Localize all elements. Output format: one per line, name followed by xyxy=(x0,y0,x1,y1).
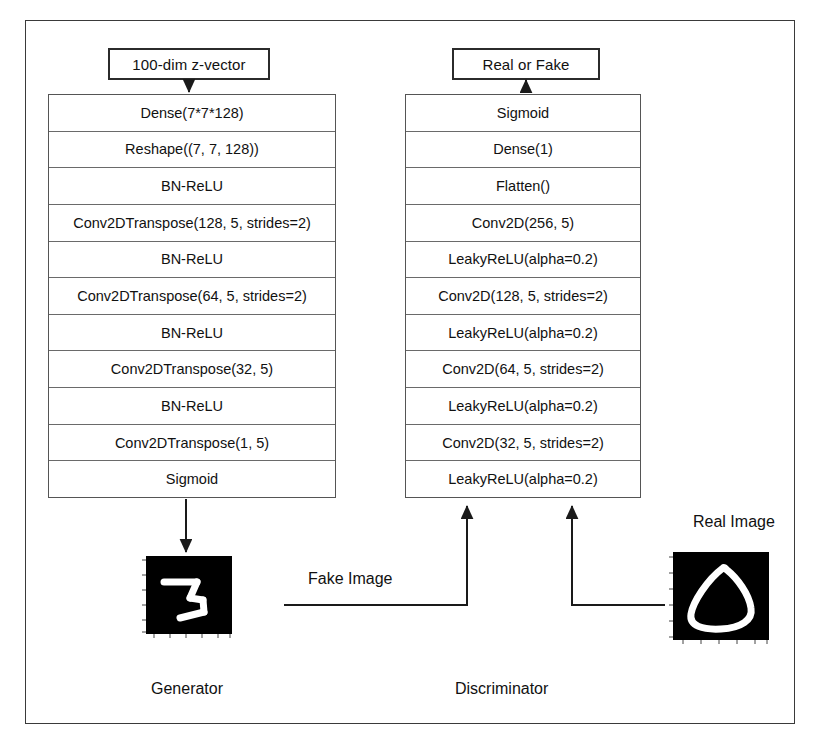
layer-label: Conv2DTranspose(64, 5, strides=2) xyxy=(77,288,307,304)
discriminator-layer-row: LeakyReLU(alpha=0.2) xyxy=(406,242,640,279)
layer-label: Dense(7*7*128) xyxy=(140,105,243,121)
discriminator-layer-row: LeakyReLU(alpha=0.2) xyxy=(406,388,640,425)
discriminator-layer-row: Conv2D(128, 5, strides=2) xyxy=(406,278,640,315)
layer-label: LeakyReLU(alpha=0.2) xyxy=(448,398,598,414)
generator-layer-row: Conv2DTranspose(64, 5, strides=2) xyxy=(49,278,335,315)
generator-layer-stack: Dense(7*7*128) Reshape((7, 7, 128)) BN-R… xyxy=(48,94,336,498)
diagram-canvas: 100-dim z-vector Real or Fake Dense(7*7*… xyxy=(0,0,813,747)
generator-layer-row: Conv2DTranspose(128, 5, strides=2) xyxy=(49,205,335,242)
layer-label: Flatten() xyxy=(496,178,550,194)
discriminator-layer-stack: Sigmoid Dense(1) Flatten() Conv2D(256, 5… xyxy=(405,94,641,498)
layer-label: LeakyReLU(alpha=0.2) xyxy=(448,325,598,341)
layer-label: Sigmoid xyxy=(166,471,218,487)
discriminator-output-label: Real or Fake xyxy=(482,56,569,73)
generator-layer-row: BN-ReLU xyxy=(49,168,335,205)
layer-label: Reshape((7, 7, 128)) xyxy=(125,141,259,157)
layer-label: BN-ReLU xyxy=(161,251,223,267)
layer-label: Conv2D(256, 5) xyxy=(472,215,574,231)
generator-layer-row: Reshape((7, 7, 128)) xyxy=(49,132,335,169)
layer-label: Conv2DTranspose(32, 5) xyxy=(111,361,273,377)
layer-label: LeakyReLU(alpha=0.2) xyxy=(448,471,598,487)
layer-label: Conv2DTranspose(128, 5, strides=2) xyxy=(73,215,311,231)
discriminator-layer-row: Conv2D(64, 5, strides=2) xyxy=(406,351,640,388)
layer-label: Sigmoid xyxy=(497,105,549,121)
generator-layer-row: BN-ReLU xyxy=(49,242,335,279)
generator-layer-row: Sigmoid xyxy=(49,461,335,497)
layer-label: Conv2D(64, 5, strides=2) xyxy=(442,361,604,377)
discriminator-layer-row: LeakyReLU(alpha=0.2) xyxy=(406,315,640,352)
generator-layer-row: Conv2DTranspose(1, 5) xyxy=(49,425,335,462)
layer-label: Dense(1) xyxy=(493,141,553,157)
layer-label: BN-ReLU xyxy=(161,398,223,414)
generator-input-label: 100-dim z-vector xyxy=(132,56,245,73)
layer-label: Conv2D(128, 5, strides=2) xyxy=(438,288,608,304)
real-digit-plot xyxy=(665,552,769,650)
generator-layer-row: BN-ReLU xyxy=(49,315,335,352)
discriminator-layer-row: Conv2D(256, 5) xyxy=(406,205,640,242)
fake-image-flow-label: Fake Image xyxy=(308,570,392,588)
discriminator-layer-row: Dense(1) xyxy=(406,132,640,169)
layer-label: BN-ReLU xyxy=(161,325,223,341)
generator-caption: Generator xyxy=(151,680,223,698)
generator-input-box: 100-dim z-vector xyxy=(108,48,270,80)
layer-label: Conv2D(32, 5, strides=2) xyxy=(442,435,604,451)
layer-label: LeakyReLU(alpha=0.2) xyxy=(448,251,598,267)
layer-label: Conv2DTranspose(1, 5) xyxy=(115,435,269,451)
real-image-caption: Real Image xyxy=(693,513,775,531)
discriminator-layer-row: LeakyReLU(alpha=0.2) xyxy=(406,461,640,497)
discriminator-output-box: Real or Fake xyxy=(452,48,600,80)
generator-layer-row: Conv2DTranspose(32, 5) xyxy=(49,351,335,388)
fake-digit-plot xyxy=(140,556,232,642)
discriminator-layer-row: Flatten() xyxy=(406,168,640,205)
layer-label: BN-ReLU xyxy=(161,178,223,194)
generator-layer-row: BN-ReLU xyxy=(49,388,335,425)
discriminator-caption: Discriminator xyxy=(455,680,548,698)
real-image-sample xyxy=(665,552,769,650)
generator-layer-row: Dense(7*7*128) xyxy=(49,95,335,132)
discriminator-layer-row: Conv2D(32, 5, strides=2) xyxy=(406,425,640,462)
fake-image-sample xyxy=(140,556,232,642)
discriminator-layer-row: Sigmoid xyxy=(406,95,640,132)
